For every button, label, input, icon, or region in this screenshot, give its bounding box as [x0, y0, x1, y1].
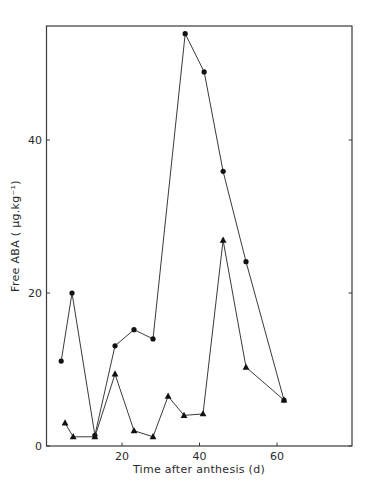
circle-marker: [131, 327, 136, 332]
circle-marker: [59, 358, 64, 363]
circle-marker: [221, 169, 226, 174]
circle-marker: [112, 343, 117, 348]
y-tick-label: 0: [35, 440, 42, 453]
triangle-marker: [62, 419, 69, 425]
circle-marker: [150, 336, 155, 341]
x-tick-label: 60: [270, 450, 284, 463]
y-axis-ticks: 02040: [28, 134, 352, 453]
y-tick-label: 20: [28, 287, 42, 300]
plot-frame: [47, 26, 353, 446]
y-axis-title: Free ABA ( μg.kg⁻¹): [9, 180, 22, 292]
series-circles: [59, 31, 287, 438]
triangle-marker: [243, 363, 250, 369]
triangle-marker: [112, 370, 119, 376]
triangle-marker: [220, 236, 227, 242]
x-tick-label: 20: [115, 450, 129, 463]
triangle-marker: [70, 433, 77, 439]
circles-line: [61, 34, 284, 436]
triangles-line: [65, 240, 284, 437]
triangle-marker: [165, 393, 172, 399]
triangle-marker: [131, 427, 138, 433]
line-chart: 02040 204060 Time after anthesis (d) Fre…: [0, 0, 370, 493]
y-tick-label: 40: [28, 134, 42, 147]
circle-marker: [243, 259, 248, 264]
x-axis-title: Time after anthesis (d): [132, 463, 265, 476]
series-triangles: [62, 236, 288, 439]
x-tick-label: 40: [193, 450, 207, 463]
triangle-marker: [200, 410, 207, 416]
series-layer: [59, 31, 288, 439]
circle-marker: [183, 31, 188, 36]
circle-marker: [202, 69, 207, 74]
circle-marker: [69, 290, 74, 295]
